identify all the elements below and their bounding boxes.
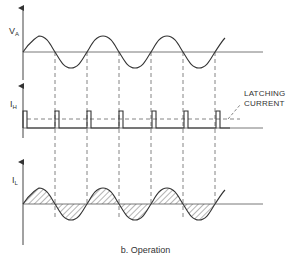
sync-dashed-lines: [55, 52, 215, 220]
load-current-panel: [23, 162, 263, 245]
operation-diagram: [0, 0, 291, 261]
anode-voltage-panel: [23, 8, 263, 80]
gate-current-panel: [23, 86, 263, 138]
latching-current-annotation: LATCHING CURRENT: [244, 89, 285, 109]
ih-label: IH: [10, 100, 17, 110]
figure-caption: b. Operation: [0, 245, 291, 255]
latching-pointer: [228, 105, 240, 119]
ih-pulse-train: [23, 111, 230, 128]
va-label: VA: [9, 27, 19, 37]
il-label: IL: [12, 176, 18, 186]
